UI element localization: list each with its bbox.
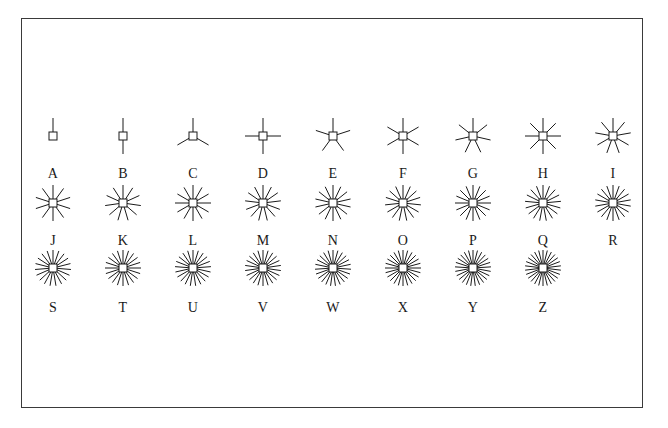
figure-border-frame <box>21 18 643 408</box>
figure-root: ABCDEFGHIJKLMNOPQRSTUVWXYZ <box>0 0 668 428</box>
